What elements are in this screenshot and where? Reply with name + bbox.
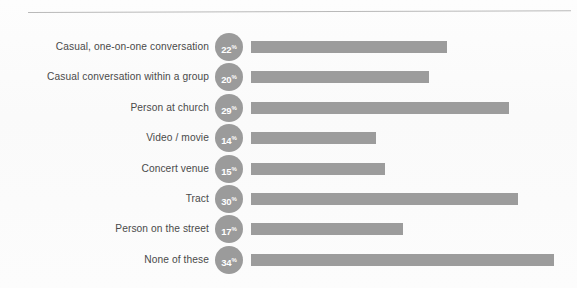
chart-row: Casual conversation within a group20% [0, 62, 577, 92]
value-number: 34 [221, 257, 231, 268]
value-bar [251, 71, 429, 83]
category-label: Person on the street [115, 214, 209, 244]
category-label: Concert venue [141, 154, 209, 184]
value-number: 30 [221, 196, 231, 207]
percent-sign: % [231, 105, 236, 111]
category-label: Person at church [130, 93, 209, 123]
chart-row: None of these34% [0, 245, 577, 275]
value-number: 15 [221, 166, 231, 177]
bar-track [251, 132, 561, 144]
value-number: 20 [221, 75, 231, 86]
bar-track [251, 71, 561, 83]
value-bar [251, 223, 403, 235]
bar-track [251, 163, 561, 175]
chart-row: Person at church29% [0, 93, 577, 123]
bar-track [251, 223, 561, 235]
value-bar [251, 132, 376, 144]
value-badge: 34% [215, 246, 243, 274]
bar-track [251, 41, 561, 53]
bar-track [251, 102, 561, 114]
bar-chart-figure: Casual, one-on-one conversation22%Casual… [0, 0, 577, 288]
category-label: None of these [144, 245, 209, 275]
value-number: 22 [221, 44, 231, 55]
value-bar [251, 41, 447, 53]
value-number: 17 [221, 227, 231, 238]
value-badge: 20% [215, 63, 243, 91]
chart-row: Video / movie14% [0, 123, 577, 153]
percent-sign: % [231, 196, 236, 202]
percent-sign: % [231, 226, 236, 232]
value-badge: 22% [215, 33, 243, 61]
value-badge: 29% [215, 94, 243, 122]
value-number: 14 [221, 135, 231, 146]
value-badge: 17% [215, 215, 243, 243]
value-number: 29 [221, 105, 231, 116]
percent-sign: % [231, 166, 236, 172]
category-label: Casual, one-on-one conversation [56, 32, 209, 62]
value-bar [251, 102, 509, 114]
value-badge: 30% [215, 185, 243, 213]
category-label: Video / movie [146, 123, 209, 153]
percent-sign: % [231, 74, 236, 80]
value-bar [251, 193, 518, 205]
bar-track [251, 254, 561, 266]
percent-sign: % [231, 257, 236, 263]
chart-row: Casual, one-on-one conversation22% [0, 32, 577, 62]
value-badge: 14% [215, 124, 243, 152]
category-label: Tract [186, 184, 209, 214]
value-bar [251, 163, 385, 175]
chart-row: Concert venue15% [0, 154, 577, 184]
category-label: Casual conversation within a group [47, 62, 209, 92]
chart-row: Person on the street17% [0, 214, 577, 244]
bar-track [251, 193, 561, 205]
chart-row: Tract30% [0, 184, 577, 214]
chart-rows-container: Casual, one-on-one conversation22%Casual… [0, 0, 577, 288]
percent-sign: % [231, 135, 236, 141]
percent-sign: % [231, 44, 236, 50]
value-bar [251, 254, 554, 266]
value-badge: 15% [215, 155, 243, 183]
